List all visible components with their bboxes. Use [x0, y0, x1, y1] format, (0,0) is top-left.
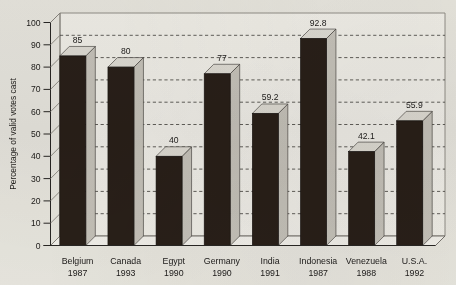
y-axis-tick-depth: [51, 13, 61, 23]
bar-front-face[interactable]: [300, 39, 326, 246]
y-axis-tick-label: 100: [26, 18, 41, 28]
bar-value-label: 85: [73, 35, 83, 45]
y-axis-tick-depth: [51, 102, 61, 112]
x-axis-year-label: 1990: [164, 268, 184, 278]
bar-front-face[interactable]: [204, 74, 230, 246]
x-axis-category-label: Egypt: [163, 256, 186, 266]
x-axis-year-label: 1987: [308, 268, 328, 278]
bar-front-face[interactable]: [156, 156, 182, 245]
y-axis-tick-label: 70: [31, 84, 41, 94]
x-axis-category-label: Germany: [204, 256, 241, 266]
y-axis-tick-depth: [51, 125, 61, 135]
x-axis-year-label: 1988: [357, 268, 377, 278]
y-axis-tick-label: 80: [31, 62, 41, 72]
bar-side-face: [182, 147, 192, 246]
bar-front-face[interactable]: [349, 152, 375, 246]
y-axis-tick-label: 60: [31, 107, 41, 117]
x-axis-year-label: 1992: [405, 268, 425, 278]
y-axis-tick-depth: [51, 169, 61, 179]
bar-side-face: [134, 58, 144, 246]
bar-value-label: 77: [217, 53, 227, 63]
y-axis-tick-depth: [51, 191, 61, 201]
bar-side-face: [86, 46, 96, 245]
bar-side-face: [423, 111, 433, 245]
y-axis-tick-label: 40: [31, 151, 41, 161]
bar-chart: 0102030405060708090100Percentage of vali…: [0, 0, 456, 285]
x-axis-category-label: India: [261, 256, 280, 266]
y-axis-tick-label: 30: [31, 174, 41, 184]
bar-value-label: 55.9: [406, 100, 423, 110]
x-axis-category-label: Canada: [110, 256, 141, 266]
y-axis-tick-depth: [51, 147, 61, 157]
y-axis-tick-label: 20: [31, 196, 41, 206]
bar-front-face[interactable]: [397, 121, 423, 246]
x-axis-year-label: 1991: [260, 268, 280, 278]
y-axis-tick-label: 0: [36, 241, 41, 251]
y-axis-tick-depth: [51, 58, 61, 68]
x-axis-year-label: 1993: [116, 268, 136, 278]
x-axis-category-label: Indonesia: [299, 256, 337, 266]
x-axis-year-label: 1987: [68, 268, 88, 278]
x-axis-category-label: Venezuela: [346, 256, 387, 266]
chart-canvas: 0102030405060708090100Percentage of vali…: [0, 0, 456, 285]
x-axis-category-label: U.S.A.: [402, 256, 427, 266]
y-axis-tick-depth: [51, 80, 61, 90]
y-axis-tick-depth: [51, 35, 61, 45]
bar-side-face: [230, 64, 240, 245]
y-axis-tick-label: 90: [31, 40, 41, 50]
bar-side-face: [375, 142, 385, 245]
bar-value-label: 92.8: [310, 18, 327, 28]
bar-front-face[interactable]: [60, 56, 86, 246]
x-axis-year-label: 1990: [212, 268, 232, 278]
y-axis-title: Percentage of valid votes cast: [8, 77, 18, 189]
x-axis-category-label: Belgium: [62, 256, 94, 266]
bar-value-label: 40: [169, 135, 179, 145]
y-axis-tick-depth: [51, 214, 61, 224]
bar-front-face[interactable]: [252, 113, 278, 245]
bar-value-label: 80: [121, 46, 131, 56]
bar-side-face: [326, 29, 336, 245]
bar-value-label: 42.1: [358, 131, 375, 141]
y-axis-tick-label: 50: [31, 129, 41, 139]
y-axis-tick-label: 10: [31, 218, 41, 228]
bar-side-face: [278, 104, 288, 246]
bar-value-label: 59.2: [262, 92, 279, 102]
bar-front-face[interactable]: [108, 67, 134, 245]
